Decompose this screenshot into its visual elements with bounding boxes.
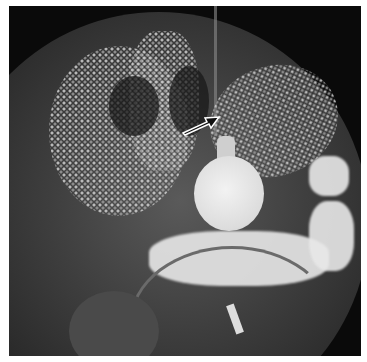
radiograph-frame: [0, 0, 367, 362]
radiograph-image: [9, 6, 361, 356]
contrast-bowel-right-upper: [309, 156, 349, 196]
contrast-balloon: [194, 156, 264, 231]
gas-shadow: [109, 76, 159, 136]
arrow-annotation-icon: [181, 114, 221, 136]
contrast-bowel-right: [309, 201, 354, 271]
